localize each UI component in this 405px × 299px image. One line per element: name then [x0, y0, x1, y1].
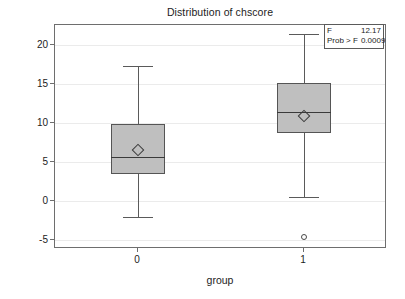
stats-row: F12.17	[327, 26, 381, 36]
y-tick-mark	[50, 239, 54, 240]
whisker-cap-lower	[289, 197, 319, 198]
x-tick-mark	[303, 248, 304, 252]
y-tick-label: -5	[8, 233, 48, 244]
y-tick-label: 10	[8, 116, 48, 127]
median-line	[111, 157, 165, 158]
gridline	[55, 123, 385, 124]
x-tick-mark	[137, 248, 138, 252]
boxplot-figure: Distribution of chscore 20151050-5 chsco…	[0, 0, 405, 299]
y-tick-mark	[50, 161, 54, 162]
x-axis-label: group	[54, 274, 386, 286]
gridline	[55, 240, 385, 241]
y-tick-label: 15	[8, 77, 48, 88]
stats-key: F	[327, 26, 335, 36]
outlier-point	[301, 234, 307, 240]
whisker-cap-upper	[289, 34, 319, 35]
stats-value: 0.0009	[361, 36, 385, 46]
x-tick-label: 1	[300, 254, 306, 265]
y-tick-mark	[50, 200, 54, 201]
box-rect	[277, 83, 331, 134]
gridline	[55, 162, 385, 163]
whisker-cap-upper	[123, 66, 153, 67]
gridline	[55, 84, 385, 85]
y-tick-label: 0	[8, 194, 48, 205]
y-tick-mark	[50, 83, 54, 84]
y-tick-mark	[50, 122, 54, 123]
y-tick-mark	[50, 44, 54, 45]
whisker-cap-lower	[123, 217, 153, 218]
stats-annotation-box: F12.17Prob > F0.0009	[324, 24, 384, 49]
x-tick-label: 0	[134, 254, 140, 265]
chart-title: Distribution of chscore	[54, 6, 386, 18]
stats-row: Prob > F0.0009	[327, 36, 381, 46]
plot-area	[54, 24, 386, 248]
y-tick-label: 20	[8, 38, 48, 49]
y-tick-label: 5	[8, 155, 48, 166]
gridline	[55, 201, 385, 202]
stats-value: 12.17	[361, 26, 381, 36]
stats-key: Prob > F	[327, 36, 361, 46]
